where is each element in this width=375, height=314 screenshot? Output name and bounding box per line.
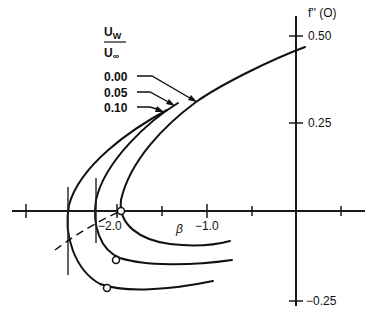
- legend-title-denominator: U∞: [104, 46, 120, 61]
- marker-005: [113, 257, 120, 264]
- x-axis: [12, 204, 365, 218]
- y-axis-label: f'' (O): [308, 6, 337, 20]
- x-axis-label: β: [175, 222, 183, 236]
- legend-entry-000: 0.00: [104, 70, 128, 84]
- chart: f'' (O) 0.50 0.25 −0.25 −2.0 −1.0 β UW U…: [0, 0, 375, 314]
- marker-000: [118, 208, 125, 215]
- legend-title-numerator: UW: [104, 25, 122, 41]
- legend-entry-005: 0.05: [104, 86, 128, 100]
- y-tick-label-050: 0.50: [308, 29, 332, 43]
- arrow-icon: [188, 95, 197, 102]
- x-tick-label-m10: −1.0: [195, 219, 219, 233]
- legend-entry-010: 0.10: [104, 101, 128, 115]
- arrow-icon: [155, 106, 164, 112]
- leader-005: [137, 92, 172, 104]
- y-axis: [289, 16, 303, 306]
- legend: UW U∞ 0.00 0.05 0.10: [104, 25, 197, 115]
- curve-000: [121, 47, 305, 245]
- y-tick-label-025: 0.25: [308, 116, 332, 130]
- y-tick-label-m025: −0.25: [306, 294, 337, 308]
- leader-000: [137, 76, 195, 101]
- marker-010: [104, 285, 111, 292]
- curve-005: [95, 103, 232, 264]
